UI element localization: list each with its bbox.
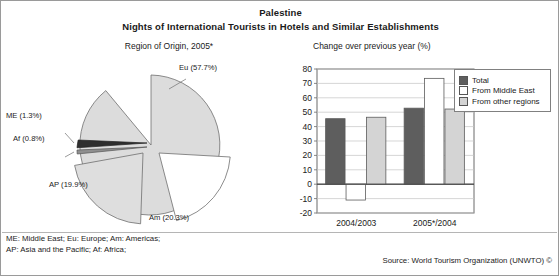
y-axis-tick-label: 60 [303, 93, 313, 103]
bar [445, 109, 464, 184]
page-subtitle: Nights of International Tourists in Hote… [1, 21, 559, 32]
bar [404, 108, 423, 184]
legend-swatch-icon [459, 76, 468, 85]
legend-item: Total [459, 76, 547, 85]
footnotes: ME: Middle East; Eu: Europe; Am: America… [6, 233, 160, 255]
y-axis-tick-label: 40 [303, 122, 313, 132]
y-axis-tick-label: -10 [300, 194, 313, 204]
legend-item: From other regions [459, 97, 547, 106]
bar [326, 119, 345, 185]
footnote-line-1: ME: Middle East; Eu: Europe; Am: America… [6, 233, 160, 244]
y-axis-tick-label: 50 [303, 107, 313, 117]
bar [346, 184, 365, 200]
pie-slices [75, 75, 231, 224]
pie-label-af: Af (0.8%) [13, 134, 45, 143]
bar [366, 117, 385, 184]
legend-label: From Middle East [472, 86, 535, 95]
page-title: Palestine [1, 7, 559, 18]
legend-item: From Middle East [459, 86, 547, 95]
bar-chart-title: Change over previous year (%) [313, 41, 543, 51]
source-note: Source: World Tourism Organization (UNWT… [382, 256, 552, 265]
pie-chart: Eu (57.7%) ME (1.3%) Af (0.8%) AP (19.9%… [1, 53, 291, 231]
leader-line-af [65, 152, 74, 157]
y-axis-tick-label: 30 [303, 136, 313, 146]
leader-line-me [65, 133, 74, 143]
chart-figure: Palestine Nights of International Touris… [0, 0, 559, 276]
legend-label: From other regions [472, 97, 540, 106]
legend-swatch-icon [459, 97, 468, 106]
pie-label-me: ME (1.3%) [6, 111, 42, 120]
pie-label-am: Am (20.3%) [149, 213, 189, 222]
y-axis-tick-label: 70 [303, 78, 313, 88]
legend-label: Total [472, 76, 489, 85]
y-axis-tick-label: -20 [300, 208, 313, 218]
y-axis-tick-label: 0 [307, 179, 312, 189]
pie-label-ap: AP (19.9%) [49, 180, 88, 189]
legend-swatch-icon [459, 86, 468, 95]
y-axis-tick-label: 80 [303, 64, 313, 74]
x-axis-labels: 2004/20032005*/2004 [336, 218, 457, 228]
y-axis-tick-label: 10 [303, 165, 313, 175]
x-axis-tick-label: 2004/2003 [336, 218, 376, 228]
bar [425, 78, 444, 184]
pie-label-eu: Eu (57.7%) [179, 63, 217, 72]
y-axis-tick-label: 20 [303, 150, 313, 160]
x-axis-tick-label: 2005*/2004 [413, 218, 457, 228]
chart-legend: TotalFrom Middle EastFrom other regions [454, 69, 551, 112]
pie-chart-title: Region of Origin, 2005* [59, 41, 279, 51]
footnote-line-2: AP: Asia and the Pacific; Af: Africa; [6, 244, 160, 255]
